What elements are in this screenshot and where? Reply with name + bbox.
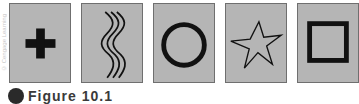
square-icon [298, 4, 358, 82]
card-square [297, 3, 359, 83]
figure-caption: Figure 10.1 [8, 88, 113, 104]
star-icon [226, 4, 286, 82]
card-star [225, 3, 287, 83]
card-wavy-lines [81, 3, 143, 83]
figure-label: Figure 10.1 [28, 88, 113, 104]
plus-icon [10, 4, 70, 82]
figure-badge-icon [8, 88, 24, 104]
circle-icon [154, 4, 214, 82]
card-circle [153, 3, 215, 83]
wavy-lines-icon [82, 4, 142, 82]
card-plus [9, 3, 71, 83]
copyright-credit: © Cengage Learning [0, 4, 8, 80]
